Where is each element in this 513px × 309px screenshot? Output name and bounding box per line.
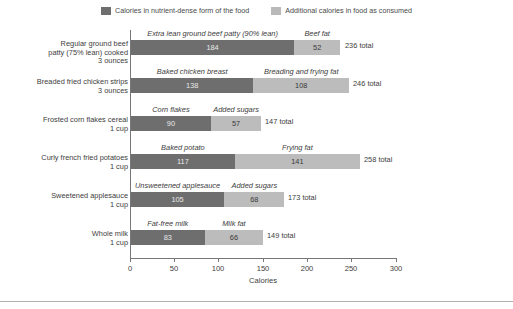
bar-value-extra: 66 (230, 233, 238, 242)
bar-caption-base: Extra lean ground beef patty (90% lean) (131, 29, 294, 40)
bar-caption-base: Baked potato (131, 143, 235, 154)
bar-caption-base: Fat-free milk (131, 219, 205, 230)
table-row: Curly french fried potatoes 1 cup Baked … (0, 142, 513, 180)
bar-total-label: 147 total (265, 117, 293, 126)
bar-segment-extra: Added sugars 57 (211, 116, 262, 131)
bar-track-curly-french-fried-potatoes: Baked potato 117 Frying fat 141 (131, 154, 360, 169)
bar-caption-extra: Frying fat (235, 143, 360, 154)
bar-track-sweetened-applesauce: Unsweetened applesauce 105 Added sugars … (131, 192, 285, 207)
x-tick-label-0: 0 (128, 264, 132, 273)
x-tick-mark (396, 258, 397, 262)
x-tick-label-50: 50 (170, 264, 178, 273)
x-tick-mark (263, 258, 264, 262)
bar-total-label: 173 total (288, 193, 316, 202)
legend-swatch-icon-light (271, 7, 281, 15)
x-tick-label-250: 250 (345, 264, 358, 273)
bar-value-base: 138 (186, 81, 198, 90)
chart-rows: Regular ground beef patty (75% lean) coo… (0, 28, 513, 256)
bar-value-extra: 108 (295, 81, 307, 90)
bar-caption-extra: Added sugars (224, 181, 284, 192)
x-tick-mark (307, 258, 308, 262)
legend-item-additional: Additional calories in food as consumed (271, 6, 412, 15)
bar-value-base: 90 (167, 119, 175, 128)
table-row: Whole milk 1 cup Fat-free milk 83 Milk f… (0, 218, 513, 256)
x-tick-label-200: 200 (301, 264, 314, 273)
bar-value-base: 117 (177, 157, 189, 166)
bar-caption-extra: Beef fat (294, 29, 340, 40)
bar-segment-extra: Frying fat 141 (235, 154, 360, 169)
x-axis-title: Calories (249, 276, 277, 285)
bar-segment-base: Extra lean ground beef patty (90% lean) … (131, 40, 294, 55)
bar-segment-base: Baked chicken breast 138 (131, 78, 253, 93)
bar-segment-base: Fat-free milk 83 (131, 230, 205, 245)
bar-track-whole-milk: Fat-free milk 83 Milk fat 66 (131, 230, 263, 245)
x-axis-ticks: 0 50 100 150 200 250 300 Calories (0, 258, 513, 282)
row-label-sweetened-applesauce: Sweetened applesauce 1 cup (0, 192, 128, 209)
bar-caption-extra: Milk fat (205, 219, 264, 230)
bar-caption-base: Corn flakes (131, 105, 211, 116)
legend-swatch-icon-dark (101, 7, 111, 15)
x-tick-label-300: 300 (390, 264, 403, 273)
bar-track-frosted-corn-flakes: Corn flakes 90 Added sugars 57 (131, 116, 261, 131)
table-row: Sweetened applesauce 1 cup Unsweetened a… (0, 180, 513, 218)
bar-segment-base: Corn flakes 90 (131, 116, 211, 131)
chart-legend: Calories in nutrient-dense form of the f… (0, 6, 513, 15)
bar-segment-extra: Added sugars 68 (224, 192, 284, 207)
x-tick-mark (174, 258, 175, 262)
bar-total-label: 236 total (345, 41, 373, 50)
bottom-divider (0, 301, 513, 302)
bar-caption-extra: Breading and frying fat (253, 67, 349, 78)
x-tick-mark (351, 258, 352, 262)
x-tick-mark (218, 258, 219, 262)
row-label-whole-milk: Whole milk 1 cup (0, 230, 128, 247)
row-label-frosted-corn-flakes: Frosted corn flakes cereal 1 cup (0, 116, 128, 133)
bar-segment-extra: Beef fat 52 (294, 40, 340, 55)
bar-segment-extra: Breading and frying fat 108 (253, 78, 349, 93)
row-label-regular-ground-beef: Regular ground beef patty (75% lean) coo… (0, 40, 128, 66)
legend-item-nutrient-dense: Calories in nutrient-dense form of the f… (101, 6, 249, 15)
bar-value-extra: 68 (250, 195, 258, 204)
bar-total-label: 258 total (364, 155, 392, 164)
bar-segment-base: Unsweetened applesauce 105 (131, 192, 224, 207)
bar-caption-base: Unsweetened applesauce (131, 181, 224, 192)
bar-track-regular-ground-beef: Extra lean ground beef patty (90% lean) … (131, 40, 341, 55)
bar-caption-base: Baked chicken breast (131, 67, 253, 78)
row-label-curly-french-fried-potatoes: Curly french fried potatoes 1 cup (0, 154, 128, 171)
bar-value-extra: 141 (291, 157, 303, 166)
bar-value-base: 105 (171, 195, 183, 204)
bar-value-base: 83 (164, 233, 172, 242)
table-row: Breaded fried chicken strips 3 ounces Ba… (0, 66, 513, 104)
bar-track-breaded-fried-chicken: Baked chicken breast 138 Breading and fr… (131, 78, 349, 93)
x-tick-label-150: 150 (257, 264, 270, 273)
bar-total-label: 149 total (267, 231, 295, 240)
legend-label-additional: Additional calories in food as consumed (285, 6, 412, 15)
table-row: Frosted corn flakes cereal 1 cup Corn fl… (0, 104, 513, 142)
x-tick-mark (130, 258, 131, 262)
bar-value-base: 184 (206, 43, 218, 52)
bar-value-extra: 57 (232, 119, 240, 128)
bar-segment-extra: Milk fat 66 (205, 230, 264, 245)
row-label-breaded-fried-chicken: Breaded fried chicken strips 3 ounces (0, 78, 128, 95)
bar-total-label: 246 total (353, 79, 381, 88)
x-tick-label-100: 100 (212, 264, 225, 273)
bar-segment-base: Baked potato 117 (131, 154, 235, 169)
legend-label-nutrient-dense: Calories in nutrient-dense form of the f… (115, 6, 249, 15)
chart-plot-area: Regular ground beef patty (75% lean) coo… (0, 28, 513, 276)
table-row: Regular ground beef patty (75% lean) coo… (0, 28, 513, 66)
bar-caption-extra: Added sugars (211, 105, 262, 116)
bar-value-extra: 52 (313, 43, 321, 52)
